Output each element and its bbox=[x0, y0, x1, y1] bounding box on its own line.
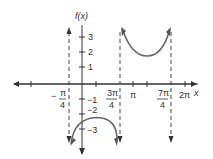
csc-function-graph: f(x) x 3 2 1 −1 −2 −3 − π 4 3π 4 π 7π 4 … bbox=[0, 0, 213, 159]
x-label-neg-pi-over-4: − π 4 bbox=[51, 88, 66, 110]
upper-branch-curve bbox=[123, 31, 169, 56]
svg-text:7π: 7π bbox=[158, 88, 169, 98]
y-tick-1: 1 bbox=[88, 62, 93, 72]
svg-text:−: − bbox=[51, 91, 56, 101]
x-label-pi: π bbox=[130, 90, 136, 100]
x-label-2pi: 2π bbox=[179, 90, 190, 100]
svg-text:4: 4 bbox=[160, 100, 165, 110]
svg-text:4: 4 bbox=[60, 100, 65, 110]
x-label-7pi-over-4: 7π 4 bbox=[157, 88, 169, 110]
y-tick-neg3: −3 bbox=[87, 125, 97, 135]
svg-text:3π: 3π bbox=[107, 88, 118, 98]
svg-text:π: π bbox=[60, 88, 66, 98]
x-axis-label: x bbox=[193, 88, 199, 98]
svg-text:4: 4 bbox=[109, 100, 114, 110]
y-tick-neg2: −2 bbox=[87, 105, 97, 115]
y-tick-neg1: −1 bbox=[87, 95, 97, 105]
y-axis-label: f(x) bbox=[75, 11, 88, 21]
graph-svg: f(x) x 3 2 1 −1 −2 −3 − π 4 3π 4 π 7π 4 … bbox=[0, 0, 213, 159]
asymptotes bbox=[69, 32, 171, 140]
y-tick-2: 2 bbox=[88, 47, 93, 57]
y-tick-3: 3 bbox=[88, 32, 93, 42]
x-label-3pi-over-4: 3π 4 bbox=[106, 88, 118, 110]
